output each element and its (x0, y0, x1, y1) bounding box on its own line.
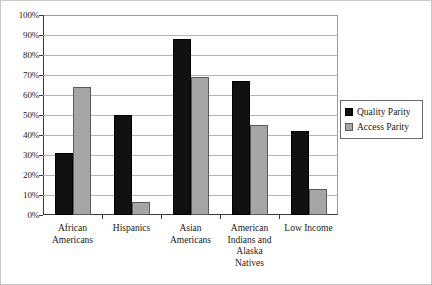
y-axis-tick-label: 20% (23, 170, 39, 180)
gridline (43, 35, 338, 36)
category-label-line: African (39, 223, 106, 235)
category-label-line: Indians and (216, 235, 283, 247)
category-label: AfricanAmericans (39, 223, 106, 246)
y-axis-tick-label: 70% (23, 70, 39, 80)
bar-quality-parity (232, 81, 250, 215)
category-label: AsianAmericans (157, 223, 224, 246)
legend-item-label: Quality Parity (357, 107, 411, 117)
y-axis-tick-mark (39, 95, 43, 96)
bar-access-parity (191, 77, 209, 215)
y-axis-labels: 100%90%80%70%60%50%40%30%20%10%0% (1, 1, 39, 285)
y-axis-tick-mark (39, 155, 43, 156)
y-axis-tick-label: 50% (23, 110, 39, 120)
y-axis-tick-mark (39, 195, 43, 196)
category-label-line: American (216, 223, 283, 235)
y-axis-tick-mark (39, 75, 43, 76)
y-axis-tick-label: 100% (19, 10, 39, 20)
x-axis-tick-mark (220, 215, 221, 219)
y-axis-tick-label: 40% (23, 130, 39, 140)
legend-swatch-access-icon (345, 123, 353, 131)
y-axis-tick-label: 10% (23, 190, 39, 200)
y-axis-tick-mark (39, 215, 43, 216)
y-axis-tick-mark (39, 35, 43, 36)
bar-access-parity (250, 125, 268, 215)
y-axis-tick-label: 60% (23, 90, 39, 100)
bar-access-parity (309, 189, 327, 215)
plot-area (43, 15, 338, 215)
gridline (43, 55, 338, 56)
chart-figure: 100%90%80%70%60%50%40%30%20%10%0% Africa… (0, 0, 432, 285)
y-axis-tick-mark (39, 175, 43, 176)
y-axis-tick-label: 90% (23, 30, 39, 40)
category-label-line: Americans (39, 235, 106, 247)
bar-quality-parity (291, 131, 309, 215)
category-label-line: Alaska (216, 246, 283, 258)
bar-access-parity (132, 202, 150, 215)
gridline (43, 75, 338, 76)
bar-access-parity (73, 87, 91, 215)
category-label-line: Natives (216, 258, 283, 270)
y-axis-tick-label: 0% (27, 210, 39, 220)
bar-quality-parity (114, 115, 132, 215)
category-label-line: Asian (157, 223, 224, 235)
y-axis-tick-mark (39, 55, 43, 56)
y-axis-tick-label: 30% (23, 150, 39, 160)
bar-quality-parity (173, 39, 191, 215)
category-label-line: Hispanics (98, 223, 165, 235)
y-axis-tick-label: 80% (23, 50, 39, 60)
legend-item: Access Parity (345, 119, 418, 134)
legend-swatch-quality-icon (345, 108, 353, 116)
x-axis-tick-mark (102, 215, 103, 219)
legend-item-label: Access Parity (357, 122, 409, 132)
category-label: AmericanIndians andAlaskaNatives (216, 223, 283, 269)
bar-quality-parity (55, 153, 73, 215)
category-label-line: Americans (157, 235, 224, 247)
y-axis-tick-mark (39, 115, 43, 116)
y-axis-tick-mark (39, 15, 43, 16)
x-axis-tick-mark (161, 215, 162, 219)
y-axis-tick-mark (39, 135, 43, 136)
category-label: Hispanics (98, 223, 165, 235)
category-label-line: Low Income (275, 223, 342, 235)
chart-legend: Quality ParityAccess Parity (340, 100, 423, 139)
legend-item: Quality Parity (345, 104, 418, 119)
category-label: Low Income (275, 223, 342, 235)
x-axis-tick-mark (279, 215, 280, 219)
